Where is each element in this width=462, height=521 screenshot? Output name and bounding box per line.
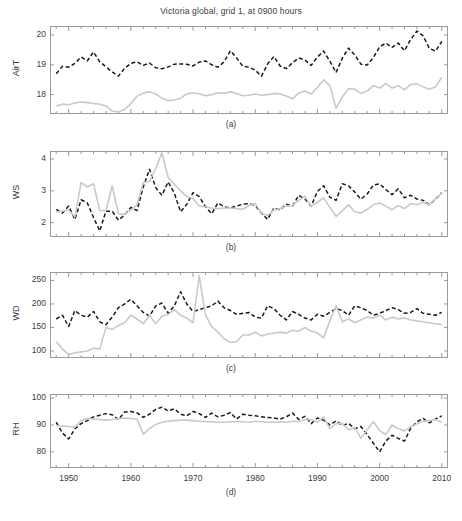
xtick-1990: 1990 — [297, 473, 337, 483]
xtick-1980: 1980 — [235, 473, 275, 483]
panel-d-series-observed — [56, 407, 442, 452]
panel-d-caption: (d) — [0, 487, 462, 497]
xtick-2010: 2010 — [422, 473, 462, 483]
xtick-2000: 2000 — [360, 473, 400, 483]
figure-container: Victoria global, grid 1, at 0900 hours A… — [0, 0, 462, 521]
panel-d: RH (d) 809010019501960197019801990200020… — [0, 0, 462, 140]
panel-d-series-modelled — [56, 417, 442, 439]
xtick-1960: 1960 — [111, 473, 151, 483]
panel-d-ytick-80: 80 — [37, 446, 46, 456]
panel-d-ytick-90: 90 — [37, 419, 46, 429]
panel-d-series-layer — [0, 0, 462, 521]
panel-d-ytick-100: 100 — [32, 392, 46, 402]
xtick-1950: 1950 — [49, 473, 89, 483]
xtick-1970: 1970 — [173, 473, 213, 483]
